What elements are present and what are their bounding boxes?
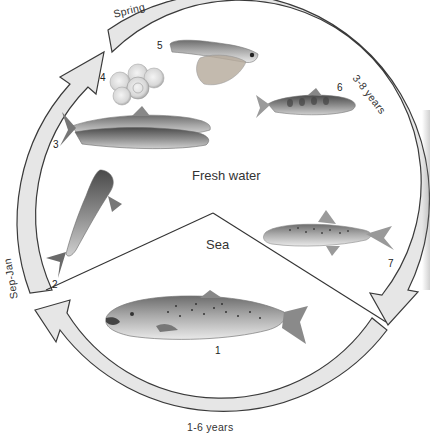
- stage-number-4: 4: [100, 72, 106, 83]
- alevin-icon: [170, 40, 258, 85]
- region-label-sea: Sea: [206, 237, 229, 252]
- region-label-fresh-water: Fresh water: [192, 168, 261, 183]
- spawning-pair-icon: [60, 106, 210, 149]
- stage-number-2: 2: [52, 279, 58, 290]
- smolt-icon: [264, 210, 394, 256]
- cycle-ring-graphic: [0, 0, 430, 435]
- page-edge-shadow: [422, 110, 430, 290]
- adult-salmon-icon: [106, 290, 308, 344]
- stage-number-7: 7: [388, 258, 394, 269]
- stage-number-1: 1: [215, 345, 221, 356]
- stage-number-3: 3: [53, 139, 59, 150]
- eggs-icon: [110, 64, 164, 105]
- leaping-salmon-icon: [46, 170, 122, 278]
- stage-number-5: 5: [157, 40, 163, 51]
- salmon-life-cycle-diagram: Spring 3-8 years Sep-Jan 1-6 years Fresh…: [0, 0, 430, 435]
- stage-number-6: 6: [337, 82, 343, 93]
- label-sea-years: 1-6 years: [187, 421, 233, 433]
